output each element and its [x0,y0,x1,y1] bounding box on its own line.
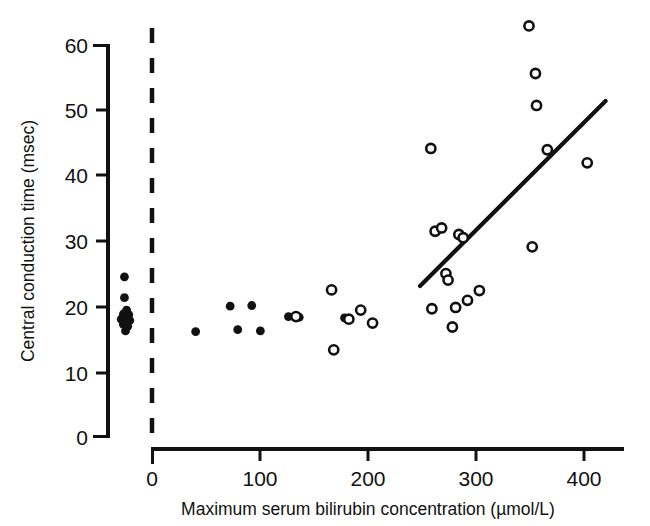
data-point-open [448,322,457,331]
data-point-open [327,285,336,294]
data-point-open [329,345,338,354]
data-point-open [437,223,446,232]
data-point-filled [191,327,200,336]
x-ticklabel-400: 400 [566,467,601,490]
data-point-open [583,158,592,167]
data-point-open [443,276,452,285]
scatter-plot-figure: 60 50 40 30 20 10 0 Central conduction t… [0,0,650,526]
data-point-open [531,69,540,78]
data-point-open [356,305,365,314]
y-axis-title: Central conduction time (msec) [18,120,38,362]
data-point-open [475,286,484,295]
x-ticklabel-100: 100 [242,467,277,490]
y-ticklabel-0: 0 [76,426,88,449]
y-ticklabel-20: 20 [65,296,88,319]
x-ticklabel-300: 300 [458,467,493,490]
chart-svg: 60 50 40 30 20 10 0 Central conduction t… [0,0,650,526]
y-ticklabel-40: 40 [65,164,88,187]
data-point-open [528,242,537,251]
data-point-open [459,233,468,242]
data-point-filled [247,301,256,310]
y-ticklabel-50: 50 [65,99,88,122]
data-point-open [532,101,541,110]
data-point-filled [120,272,129,281]
x-ticklabel-0: 0 [146,467,158,490]
y-ticklabel-60: 60 [65,34,88,57]
data-point-open [463,296,472,305]
x-axis: 0 100 200 300 400 Maximum serum bilirubi… [146,449,624,519]
data-point-filled [121,327,130,336]
data-point-open [524,21,533,30]
y-ticklabel-10: 10 [65,362,88,385]
data-point-open [451,303,460,312]
data-point-open [368,319,377,328]
data-point-open [344,315,353,324]
regression-line [420,101,606,286]
data-point-filled [226,302,235,311]
x-axis-title: Maximum serum bilirubin concentration (µ… [181,499,555,519]
y-axis: 60 50 40 30 20 10 0 Central conduction t… [18,34,108,449]
y-ticklabel-30: 30 [65,230,88,253]
data-point-filled [120,293,129,302]
x-ticklabel-200: 200 [350,467,385,490]
data-point-filled [233,325,242,334]
data-point-open [291,312,300,321]
data-point-open [427,304,436,313]
series-open-circles [291,21,591,354]
data-point-open [543,145,552,154]
data-point-filled [256,327,265,336]
data-point-open [426,144,435,153]
